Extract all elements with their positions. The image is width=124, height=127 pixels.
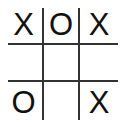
board-cell-middle-right[interactable] — [80, 45, 118, 80]
board-cell-middle-center[interactable] — [44, 45, 78, 80]
board-cell-top-right[interactable]: X — [80, 6, 118, 43]
board-cell-top-center[interactable]: O — [44, 6, 78, 43]
board-cell-bottom-left[interactable]: O — [5, 82, 42, 122]
board-cell-bottom-center[interactable] — [44, 82, 78, 122]
board-cell-middle-left[interactable] — [5, 45, 42, 80]
board-cell-bottom-right[interactable]: X — [80, 82, 118, 122]
tic-tac-toe-board: X O X O X — [0, 0, 124, 127]
board-cell-top-left[interactable]: X — [5, 6, 42, 43]
